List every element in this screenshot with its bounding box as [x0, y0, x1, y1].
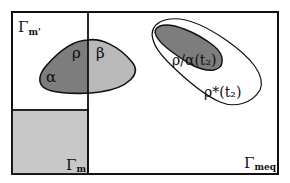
rho-label: ρ — [72, 44, 81, 62]
set-diagram: Γm' α ρ β Γm Γmeq ρ/α(t₂) ρ*(t₂) — [0, 0, 290, 183]
alpha-label: α — [46, 68, 56, 86]
rho-star-t2-label: ρ*(t₂) — [204, 84, 241, 100]
beta-label: β — [96, 44, 105, 62]
rho-alpha-t2-label: ρ/α(t₂) — [172, 52, 217, 68]
